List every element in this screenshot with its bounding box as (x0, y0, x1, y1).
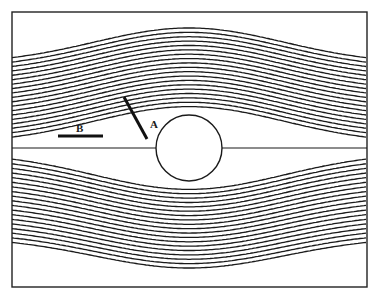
marker-a-label: A (150, 118, 158, 130)
cylinder-obstacle (156, 115, 222, 181)
marker-b-label: B (76, 122, 84, 134)
flow-diagram: A B (0, 0, 377, 298)
